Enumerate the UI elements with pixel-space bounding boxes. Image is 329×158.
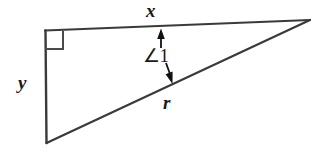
angle-label-1: ∠1 xyxy=(143,46,169,65)
geometry-figure: x y r ∠1 xyxy=(0,0,329,158)
triangle-svg xyxy=(0,0,329,158)
top-side-segment xyxy=(45,20,310,31)
hypotenuse-segment xyxy=(47,20,311,143)
side-label-r: r xyxy=(163,93,170,112)
angle-arrow-down-icon xyxy=(166,63,173,84)
left-side-segment xyxy=(46,31,47,144)
right-angle-marker-icon xyxy=(45,31,63,49)
side-label-y: y xyxy=(18,73,26,92)
side-label-x: x xyxy=(146,1,156,20)
